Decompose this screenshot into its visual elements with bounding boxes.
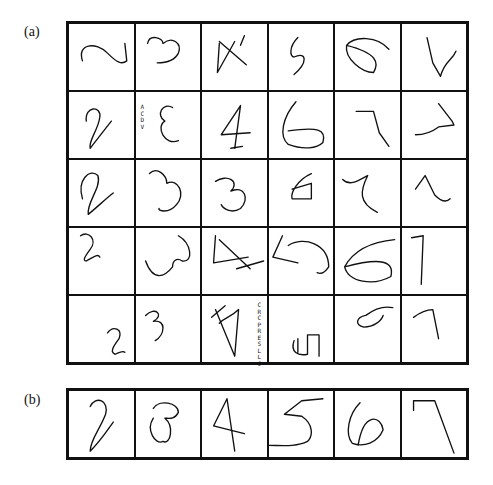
handwritten-digit-stroke bbox=[269, 92, 334, 158]
panel-a-digit-cell-3 bbox=[135, 227, 202, 295]
panel-a-digit-cell-7 bbox=[401, 227, 468, 295]
panel-a-digit-cell-7 bbox=[334, 91, 401, 159]
watermark-text: ACDV bbox=[141, 104, 147, 130]
panel-b-label: (b) bbox=[24, 392, 40, 408]
handwritten-digit-stroke bbox=[335, 391, 400, 457]
handwritten-digit-stroke bbox=[402, 391, 467, 457]
handwritten-digit-stroke bbox=[202, 92, 267, 158]
panel-a-digit-cell-5 bbox=[268, 295, 335, 363]
handwritten-digit-stroke bbox=[402, 160, 467, 226]
handwritten-digit-stroke bbox=[202, 24, 267, 90]
handwritten-digit-stroke bbox=[202, 391, 267, 457]
panel-a-digit-cell-7 bbox=[401, 295, 468, 363]
panel-a-digit-cell-3 bbox=[135, 23, 202, 91]
handwritten-digit-stroke bbox=[202, 160, 267, 226]
panel-a-digit-cell-2 bbox=[68, 91, 135, 159]
handwritten-digit-stroke bbox=[335, 228, 400, 294]
panel-a-digit-cell-2 bbox=[68, 227, 135, 295]
panel-a-digit-cell-6 bbox=[334, 227, 401, 295]
handwritten-digit-stroke bbox=[69, 92, 134, 158]
handwritten-digit-stroke bbox=[402, 228, 467, 294]
panel-a-label: (a) bbox=[24, 24, 40, 40]
panel-a-digit-cell-4: CRCPRESLLC bbox=[201, 295, 268, 363]
handwritten-digit-stroke bbox=[269, 391, 334, 457]
panel-a-digit-cell-3 bbox=[201, 159, 268, 227]
panel-a-digit-cell-3: ACDV bbox=[135, 91, 202, 159]
panel-a-digit-cell-3 bbox=[135, 295, 202, 363]
panel-a-digit-grid: ACDVCRCPRESLLC bbox=[66, 21, 469, 365]
handwritten-digit-stroke bbox=[136, 24, 201, 90]
panel-a-digit-cell-5 bbox=[268, 227, 335, 295]
handwritten-digit-stroke bbox=[136, 160, 201, 226]
handwritten-digit-stroke bbox=[136, 228, 201, 294]
handwritten-digit-stroke bbox=[136, 391, 201, 457]
panel-a-digit-cell-6 bbox=[268, 91, 335, 159]
panel-b-digit-cell-2 bbox=[68, 390, 135, 458]
panel-a-digit-cell-4 bbox=[201, 227, 268, 295]
panel-a-digit-cell-4 bbox=[201, 91, 268, 159]
handwritten-digit-stroke bbox=[335, 160, 400, 226]
panel-a-digit-cell-4 bbox=[201, 23, 268, 91]
handwritten-digit-stroke bbox=[335, 296, 400, 362]
handwritten-digit-stroke bbox=[269, 24, 334, 90]
panel-a-digit-cell-5 bbox=[268, 23, 335, 91]
panel-b-digit-cell-6 bbox=[334, 390, 401, 458]
handwritten-digit-stroke bbox=[269, 160, 334, 226]
handwritten-digit-stroke bbox=[335, 24, 400, 90]
panel-a-digit-cell-6 bbox=[268, 159, 335, 227]
panel-a-digit-cell-7 bbox=[401, 23, 468, 91]
panel-a-digit-cell-2 bbox=[68, 159, 135, 227]
handwritten-digit-stroke bbox=[136, 296, 201, 362]
panel-b-digit-cell-5 bbox=[268, 390, 335, 458]
panel-a-digit-cell-2 bbox=[68, 295, 135, 363]
panel-b-digit-cell-7 bbox=[401, 390, 468, 458]
handwritten-digit-stroke bbox=[69, 228, 134, 294]
handwritten-digit-stroke bbox=[402, 92, 467, 158]
handwritten-digit-stroke bbox=[335, 92, 400, 158]
panel-a-digit-cell-7 bbox=[401, 91, 468, 159]
panel-b-digit-cell-3 bbox=[135, 390, 202, 458]
panel-a-digit-cell-2 bbox=[68, 23, 135, 91]
panel-b-digit-row bbox=[66, 388, 469, 460]
handwritten-digit-stroke bbox=[269, 228, 334, 294]
handwritten-digit-stroke bbox=[402, 296, 467, 362]
handwritten-digit-stroke bbox=[69, 391, 134, 457]
watermark-text: CRCPRESLLC bbox=[258, 302, 264, 367]
handwritten-digit-stroke bbox=[69, 296, 134, 362]
handwritten-digit-stroke bbox=[69, 160, 134, 226]
panel-a-digit-cell-6 bbox=[334, 23, 401, 91]
handwritten-digit-stroke bbox=[402, 24, 467, 90]
handwritten-digit-stroke bbox=[202, 228, 267, 294]
handwritten-digit-stroke bbox=[69, 24, 134, 90]
panel-a-digit-cell-3 bbox=[135, 159, 202, 227]
handwritten-digit-stroke bbox=[269, 296, 334, 362]
panel-a-digit-cell-7 bbox=[334, 159, 401, 227]
panel-a-digit-cell-1 bbox=[401, 159, 468, 227]
panel-a-digit-cell-6 bbox=[334, 295, 401, 363]
panel-b-digit-cell-4 bbox=[201, 390, 268, 458]
